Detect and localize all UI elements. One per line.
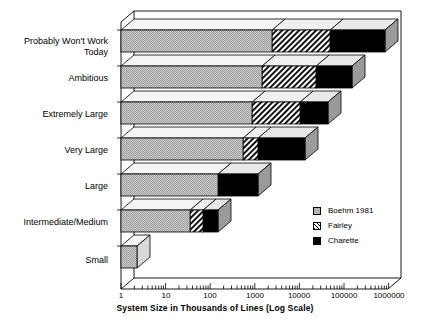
legend-swatch-charette-icon [313, 237, 321, 245]
x-tick-1000: 1000 [246, 291, 264, 300]
legend-label-charette: Charette [328, 236, 359, 245]
bar-row-very-large [121, 127, 318, 160]
chart-figure: Probably Won't Work Today Ambitious Extr… [0, 0, 430, 324]
legend-item-boehm-1981: Boehm 1981 [313, 203, 373, 218]
bar-row-large [121, 163, 271, 196]
x-axis-ticks [121, 283, 389, 289]
y-axis-ticks [117, 30, 121, 246]
x-tick-1: 1 [119, 291, 123, 300]
legend-item-fairley: Fairley [313, 218, 373, 233]
bar-row-probably-wont-work-today [121, 19, 398, 52]
bar-row-extremely-large [121, 91, 341, 124]
legend-label-boehm-1981: Boehm 1981 [328, 206, 373, 215]
bar-row-ambitious [121, 55, 365, 88]
legend-swatch-boehm-icon [313, 207, 321, 215]
x-tick-100: 100 [203, 291, 216, 300]
x-axis-title: System Size in Thousands of Lines (Log S… [0, 303, 430, 313]
x-tick-1000000: 1000000 [373, 291, 404, 300]
bar-row-small [121, 235, 150, 268]
legend-label-fairley: Fairley [328, 221, 352, 230]
x-tick-10: 10 [162, 291, 171, 300]
legend-swatch-fairley-icon [313, 222, 321, 230]
bar-row-intermediate-medium [121, 199, 231, 232]
x-tick-100000: 100000 [331, 291, 358, 300]
x-tick-10000: 10000 [288, 291, 310, 300]
legend-item-charette: Charette [313, 233, 373, 248]
chart-legend: Boehm 1981 Fairley Charette [313, 203, 373, 248]
plot-area [0, 0, 430, 324]
